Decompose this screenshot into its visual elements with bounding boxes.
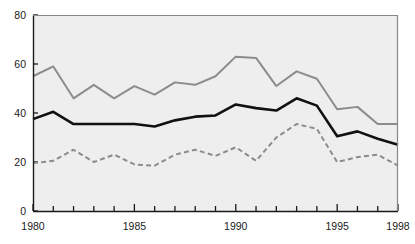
y-tick-label: 0 <box>20 205 26 217</box>
x-axis-tick-labels: 19801985199019951998 <box>21 220 410 232</box>
y-axis-tick-labels: 020406080 <box>14 9 26 217</box>
x-tick-label: 1998 <box>386 220 410 232</box>
chart-figure: 020406080 19801985199019951998 <box>0 0 415 244</box>
x-tick-label: 1985 <box>123 220 147 232</box>
x-tick-label: 1995 <box>325 220 349 232</box>
y-tick-label: 80 <box>14 9 26 21</box>
line-chart: 020406080 19801985199019951998 <box>0 0 415 244</box>
plot-area-background <box>33 15 398 211</box>
y-tick-label: 20 <box>14 156 26 168</box>
y-tick-label: 40 <box>14 107 26 119</box>
y-tick-label: 60 <box>14 58 26 70</box>
x-tick-label: 1990 <box>224 220 248 232</box>
x-tick-label: 1980 <box>21 220 45 232</box>
